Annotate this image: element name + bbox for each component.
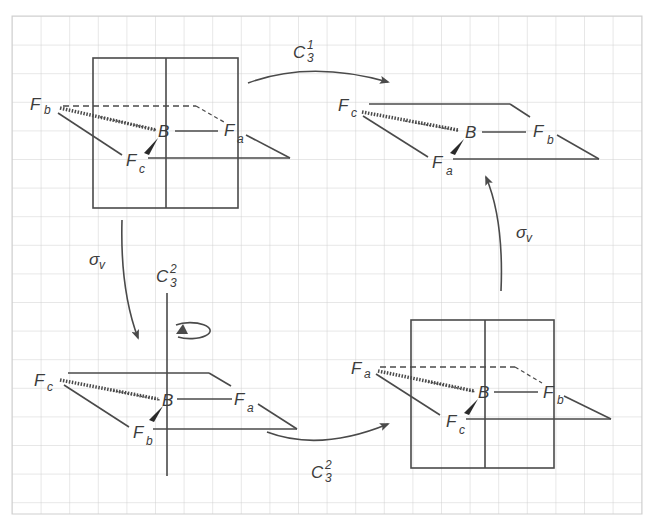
boron-label: B [478, 383, 489, 402]
svg-text:F: F [30, 95, 42, 114]
label-c3-2-axis: C 2 3 [156, 262, 177, 290]
svg-text:F: F [338, 96, 350, 115]
svg-text:a: a [247, 401, 254, 415]
symmetry-diagram: F b B F a F c F c B F b F a [0, 0, 647, 524]
svg-text:F: F [34, 371, 46, 390]
svg-text:a: a [364, 367, 371, 381]
svg-text:c: c [459, 423, 465, 437]
svg-text:b: b [146, 434, 153, 448]
svg-text:b: b [557, 393, 564, 407]
svg-text:F: F [126, 151, 138, 170]
svg-text:C: C [293, 43, 306, 62]
svg-text:v: v [99, 258, 106, 272]
svg-text:C: C [156, 267, 169, 286]
svg-text:F: F [432, 153, 444, 172]
label-c3-2-bottom: C 2 3 [311, 458, 332, 485]
svg-text:c: c [47, 380, 53, 394]
svg-text:F: F [543, 383, 555, 402]
svg-text:3: 3 [307, 51, 314, 65]
svg-text:c: c [351, 106, 357, 120]
svg-text:a: a [446, 164, 453, 178]
boron-label: B [465, 123, 476, 142]
svg-text:F: F [446, 412, 458, 431]
svg-text:a: a [237, 132, 244, 146]
svg-text:c: c [139, 162, 145, 176]
boron-label: B [158, 122, 169, 141]
boron-label: B [162, 391, 173, 410]
svg-text:C: C [311, 463, 324, 482]
svg-text:2: 2 [324, 458, 332, 472]
svg-text:v: v [526, 231, 533, 245]
svg-text:2: 2 [169, 262, 177, 276]
svg-text:3: 3 [325, 471, 332, 485]
label-c3-1: C 1 3 [293, 38, 314, 65]
svg-text:3: 3 [170, 276, 177, 290]
svg-text:F: F [133, 423, 145, 442]
svg-text:b: b [547, 133, 554, 147]
svg-text:b: b [44, 103, 51, 117]
svg-text:F: F [234, 390, 246, 409]
svg-text:F: F [533, 122, 545, 141]
svg-text:1: 1 [307, 38, 314, 52]
svg-text:F: F [224, 121, 236, 140]
svg-text:F: F [351, 359, 363, 378]
